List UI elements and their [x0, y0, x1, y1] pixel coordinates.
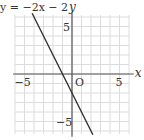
x-tick-label: 5: [116, 76, 123, 89]
equation-label: y = −2x − 2: [0, 1, 68, 14]
y-tick-label: 5: [63, 21, 70, 34]
x-tick-label: −5: [15, 76, 31, 89]
y-tick-label: −5: [56, 116, 72, 129]
chart: y = −2x − 2 y x O −555−5: [0, 0, 144, 140]
origin-label: O: [75, 76, 84, 89]
y-axis-label: y: [68, 0, 76, 14]
axes: [13, 12, 134, 136]
x-axis-label: x: [135, 66, 142, 80]
